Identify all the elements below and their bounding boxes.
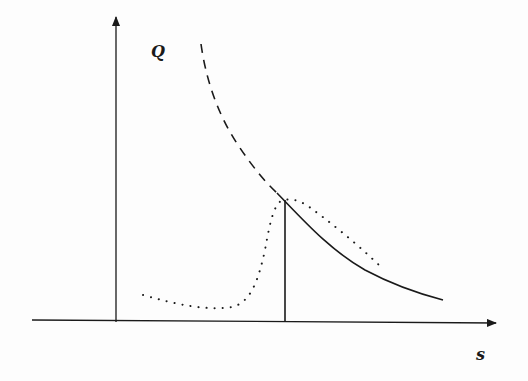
x-axis [32,320,496,323]
x-axis-label: s [475,345,485,364]
dotted-curve [143,199,380,308]
dashed-curve [201,44,277,193]
y-axis-label: Q [151,42,165,61]
diagram-canvas: Q s [0,0,528,381]
solid-curve [277,193,443,300]
diagram-svg: Q s [0,0,528,381]
